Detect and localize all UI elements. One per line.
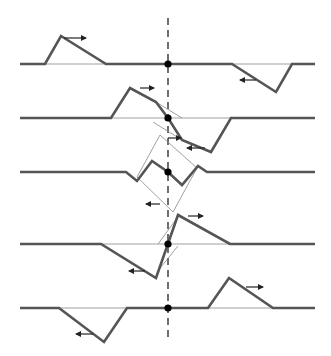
node-dot <box>164 240 171 247</box>
node-dot <box>164 304 171 311</box>
node-dot <box>164 114 171 121</box>
pulse-superposition-diagram <box>0 0 331 356</box>
node-dot <box>164 60 171 67</box>
node-dot <box>164 168 171 175</box>
